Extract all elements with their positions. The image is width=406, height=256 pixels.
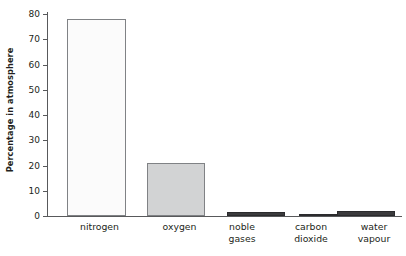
x-label-nitrogen: nitrogen (57, 221, 142, 233)
y-tick-label-50: 50 (0, 85, 40, 95)
bar-oxygen (147, 163, 205, 216)
y-tick-mark-0 (43, 216, 47, 217)
y-tick-label-60: 60 (0, 60, 40, 70)
y-tick-label-70: 70 (0, 34, 40, 44)
x-axis-line (47, 216, 402, 217)
bar-nitrogen (67, 19, 126, 216)
x-label-noble-gases-line1: noble (207, 221, 277, 233)
x-label-water-vapour: water vapour (343, 221, 405, 244)
y-tick-label-0: 0 (0, 211, 40, 221)
x-label-water-vapour-line1: water (343, 221, 405, 233)
bar-chart: Percentage in atmosphere 0 10 20 30 40 5… (0, 0, 406, 256)
x-label-carbon-dioxide: carbon dioxide (273, 221, 349, 244)
plot-area (47, 10, 402, 216)
bar-noble-gases (227, 212, 285, 216)
x-label-carbon-dioxide-line2: dioxide (273, 233, 349, 245)
x-label-noble-gases: noble gases (207, 221, 277, 244)
x-label-carbon-dioxide-line1: carbon (273, 221, 349, 233)
y-tick-label-10: 10 (0, 186, 40, 196)
y-tick-label-30: 30 (0, 135, 40, 145)
y-tick-label-40: 40 (0, 110, 40, 120)
y-tick-label-80: 80 (0, 9, 40, 19)
x-label-noble-gases-line2: gases (207, 233, 277, 245)
x-label-water-vapour-line2: vapour (343, 233, 405, 245)
bar-water-vapour (337, 211, 395, 216)
y-tick-label-20: 20 (0, 161, 40, 171)
x-label-nitrogen-line1: nitrogen (57, 221, 142, 233)
